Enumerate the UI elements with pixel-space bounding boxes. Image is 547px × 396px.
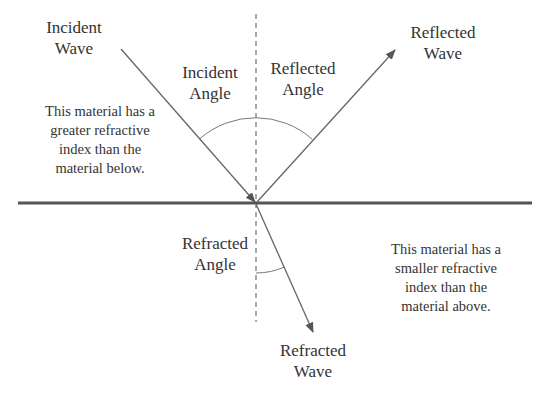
refracted-ray-arrow: [256, 204, 313, 332]
incident-reflected-angle-arc: [200, 118, 313, 140]
upper-material-note: This material has a greater refractive i…: [20, 102, 180, 178]
incident-angle-label: Incident Angle: [170, 62, 250, 104]
lower-material-note: This material has a smaller refractive i…: [366, 240, 526, 316]
reflected-wave-label: Reflected Wave: [400, 22, 486, 64]
reflected-angle-label: Reflected Angle: [260, 58, 346, 100]
refraction-diagram: Incident Wave Incident Angle Reflected A…: [0, 0, 547, 396]
refracted-wave-label: Refracted Wave: [270, 340, 356, 382]
refracted-angle-label: Refracted Angle: [172, 233, 258, 275]
refracted-angle-arc: [256, 267, 284, 273]
incident-wave-label: Incident Wave: [34, 17, 114, 59]
